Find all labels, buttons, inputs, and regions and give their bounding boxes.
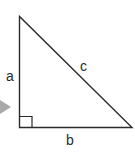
right-triangle-diagram: a b c	[0, 0, 135, 153]
side-a-label: a	[6, 68, 14, 84]
side-b-label: b	[66, 132, 74, 148]
triangle-shape	[20, 17, 133, 128]
hypotenuse-c-label: c	[80, 58, 87, 74]
pointer-arrow-icon	[0, 100, 11, 114]
right-angle-marker	[20, 117, 33, 128]
